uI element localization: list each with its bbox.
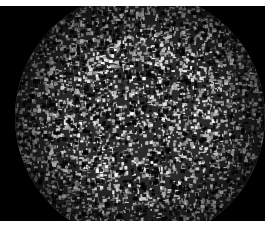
speckle-field	[15, 6, 265, 221]
micrograph-frame	[0, 6, 265, 221]
speckle-texture	[15, 6, 265, 221]
